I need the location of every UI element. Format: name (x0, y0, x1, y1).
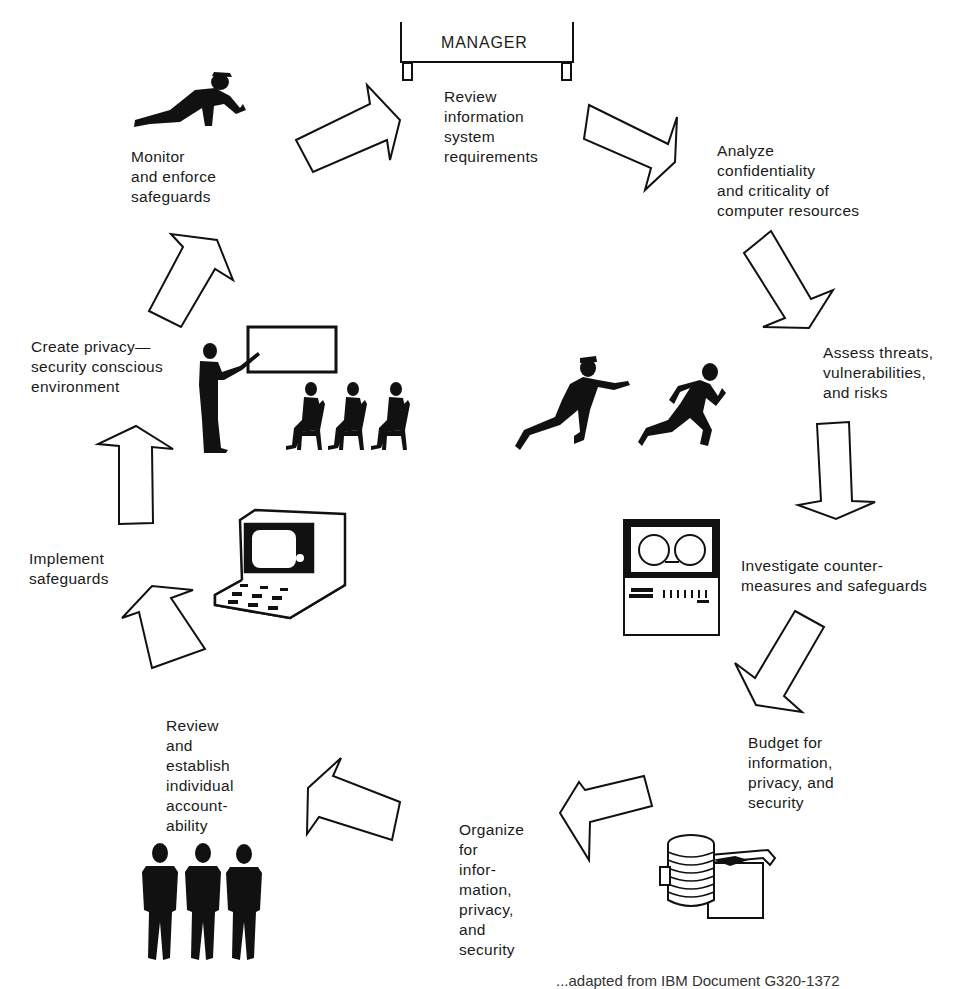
step-investigate-countermeasures: Investigate counter- measures and safegu… (741, 556, 927, 596)
step-review-accountability: Review and establish individual account-… (166, 716, 234, 836)
coins-and-cash-icon (660, 835, 775, 918)
arrow-icon (735, 611, 824, 712)
step-implement-safeguards: Implement safeguards (29, 549, 109, 589)
step-review-requirements: Review information system requirements (444, 87, 538, 167)
step-organize: Organize for infor- mation, privacy, and… (459, 820, 524, 960)
arrow-icon (296, 85, 400, 172)
three-standing-people-icon (142, 843, 262, 960)
arrow-icon (149, 234, 233, 327)
source-caption: ...adapted from IBM Document G320-1372 (556, 972, 839, 989)
presenter-with-audience-icon (199, 327, 410, 453)
seated-person-icon (371, 382, 410, 450)
tape-drive-icon (624, 520, 719, 635)
standing-person-icon (226, 844, 262, 960)
step-assess-threats: Assess threats, vulnerabilities, and ris… (823, 343, 933, 403)
policeman-chasing-thief-icon (515, 356, 726, 450)
step-monitor-enforce: Monitor and enforce safeguards (131, 147, 216, 207)
step-budget: Budget for information, privacy, and sec… (748, 733, 834, 813)
step-create-environment: Create privacy— security conscious envir… (31, 337, 163, 397)
seated-person-icon (286, 382, 325, 450)
arrow-icon (744, 231, 833, 328)
step-analyze-confidentiality: Analyze confidentiality and criticality … (717, 141, 859, 221)
standing-person-icon (142, 843, 178, 960)
arrow-icon (584, 105, 677, 190)
arrow-icon (307, 758, 400, 840)
arrow-icon (98, 426, 173, 524)
computer-terminal-icon (215, 510, 345, 618)
arrow-icon (122, 586, 205, 668)
manager-label: MANAGER (441, 34, 528, 52)
standing-person-icon (185, 843, 221, 960)
crawling-inspector-icon (134, 72, 246, 127)
arrow-icon (798, 422, 875, 519)
seated-person-icon (328, 382, 367, 450)
arrow-icon (560, 776, 652, 860)
